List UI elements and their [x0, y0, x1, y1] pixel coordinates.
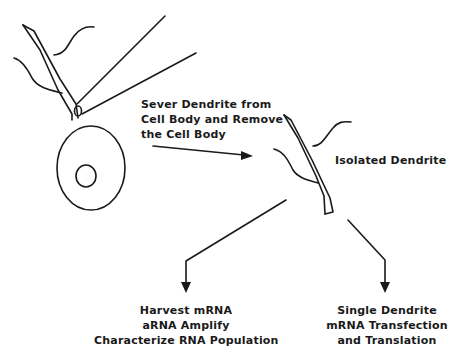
outcome-right-line-2: mRNA Transfection — [322, 318, 452, 333]
arrow-down-left-icon — [181, 200, 286, 293]
step1-line-2: Cell Body and Remove — [141, 112, 283, 127]
arrow-down-right-icon — [348, 220, 390, 293]
outcome-left-line-2: aRNA Amplify — [94, 318, 278, 333]
isolated-dendrite-label: Isolated Dendrite — [335, 153, 446, 168]
step1-line-1: Sever Dendrite from — [141, 97, 283, 112]
outcome-right-label: Single Dendrite mRNA Transfection and Tr… — [322, 303, 452, 348]
step1-label: Sever Dendrite from Cell Body and Remove… — [141, 97, 283, 142]
step1-line-3: the Cell Body — [141, 127, 283, 142]
outcome-left-label: Harvest mRNA aRNA Amplify Characterize R… — [94, 303, 278, 348]
outcome-right-line-1: Single Dendrite — [322, 303, 452, 318]
outcome-right-line-3: and Translation — [322, 333, 452, 348]
outcome-left-line-1: Harvest mRNA — [94, 303, 278, 318]
neuron-icon — [14, 25, 125, 210]
nucleus-icon — [76, 165, 96, 187]
outcome-left-line-3: Characterize RNA Population — [94, 333, 278, 348]
arrow-right-icon — [153, 146, 253, 160]
